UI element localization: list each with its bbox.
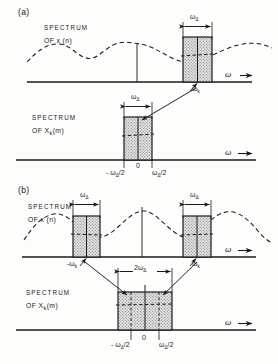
axis-label-b-top: ω <box>225 246 231 254</box>
dimension-label-b-left: ωΔ <box>80 191 89 201</box>
figure-canvas: (a) SPECTRUM OF x (n) ωΔ ωk ω SPECTRUM O… <box>0 0 278 364</box>
dimension-omega-delta-b-left <box>73 200 100 218</box>
spectrum-title-b-top-line1: SPECTRUM <box>28 204 72 210</box>
spectrum-title-b-top-line2: OF x (n) <box>28 217 56 224</box>
dimension-label-a-bottom: ωΔ <box>131 93 140 103</box>
panel-tag-a: (a) <box>18 8 29 17</box>
spectrum-title-a-top-line2: OF x (n) <box>44 38 72 45</box>
omega-k-label-a: ωk <box>192 85 200 95</box>
tick-label-pos-half-a: ωΔ/2 <box>152 169 166 179</box>
axis-label-a-top: ω <box>225 71 231 79</box>
dimension-omega-delta-b-right <box>183 200 211 218</box>
tick-label-pos-half-b: ωΔ/2 <box>159 341 173 351</box>
axis-label-a-bottom: ω <box>225 149 231 157</box>
tick-label-neg-omega-k-b: -ωk <box>67 260 77 270</box>
spectrum-envelope-curve-b <box>24 211 272 243</box>
tick-label-zero-a: 0 <box>136 162 140 169</box>
spectrum-title-b-bottom-line1: SPECTRUM <box>26 290 70 296</box>
tick-label-zero-b: 0 <box>142 334 146 341</box>
axis-label-b-bottom: ω <box>225 319 231 327</box>
subplot-a-top <box>27 22 272 91</box>
dimension-label-a-top: ωΔ <box>190 13 199 23</box>
tick-label-neg-half-b: - ωΔ/2 <box>111 341 130 351</box>
spectrum-title-b-bottom-line2: OF Xk(m) <box>26 303 58 312</box>
spectrum-title-a-bottom-line1: SPECTRUM <box>32 115 76 121</box>
connector-arrow-b-left <box>85 262 127 295</box>
tick-label-neg-half-a: - ωΔ/2 <box>106 169 125 179</box>
spectrum-title-a-bottom-line2: OF Xk(m) <box>32 128 64 137</box>
spectrum-envelope-curve-a <box>27 42 272 62</box>
tick-label-pos-omega-k-b: ωk <box>192 260 200 270</box>
panel-tag-b: (b) <box>18 186 29 195</box>
dimension-label-b-right: ωΔ <box>190 191 199 201</box>
dimension-label-b-bottom: 2ωΔ <box>134 264 146 274</box>
connector-arrow-a <box>142 88 196 120</box>
spectrum-title-a-top-line1: SPECTRUM <box>44 25 88 31</box>
